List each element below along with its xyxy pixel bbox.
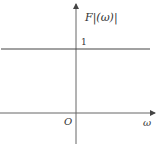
y-tick-1: 1 (81, 37, 87, 47)
y-axis-label: F|(ω)| (84, 11, 118, 25)
amplitude-spectrum-chart: F|(ω)| 1 O ω (0, 0, 157, 146)
x-axis-label: ω (143, 117, 151, 128)
origin-label: O (64, 116, 72, 127)
